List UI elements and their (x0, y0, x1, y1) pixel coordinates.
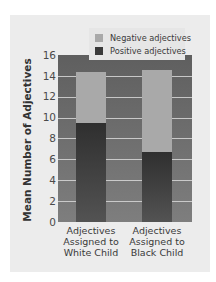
legend-swatch-negative (95, 34, 103, 42)
y-tick-14: 14 (36, 70, 56, 82)
bar-segment-negative (142, 70, 172, 152)
bar-segment-negative (76, 72, 106, 123)
bar-black-child (142, 70, 172, 222)
legend-item-positive: Positive adjectives (95, 46, 186, 56)
legend-item-negative: Negative adjectives (95, 33, 191, 43)
x-label-line: Assigned to (122, 236, 192, 247)
y-tick-2: 2 (36, 195, 56, 207)
legend-label-positive: Positive adjectives (110, 46, 186, 56)
y-tick-6: 6 (36, 153, 56, 165)
bar-white-child (76, 72, 106, 222)
y-tick-0: 0 (36, 216, 56, 228)
y-tick-16: 16 (36, 49, 56, 61)
x-label-line: Adjectives (56, 225, 126, 236)
y-tick-12: 12 (36, 90, 56, 102)
x-label-white-child: Adjectives Assigned to White Child (56, 225, 126, 258)
x-label-line: Adjectives (122, 225, 192, 236)
legend: Negative adjectives Positive adjectives (89, 28, 185, 60)
y-tick-10: 10 (36, 111, 56, 123)
y-tick-8: 8 (36, 132, 56, 144)
x-label-black-child: Adjectives Assigned to Black Child (122, 225, 192, 258)
bar-segment-positive (142, 152, 172, 222)
x-label-line: White Child (56, 247, 126, 258)
legend-label-negative: Negative adjectives (110, 33, 191, 43)
legend-swatch-positive (95, 47, 103, 55)
y-axis-label: Mean Number of Adjectives (21, 58, 33, 221)
bar-segment-positive (76, 123, 106, 222)
x-label-line: Assigned to (56, 236, 126, 247)
plot-area (58, 55, 192, 222)
y-tick-4: 4 (36, 174, 56, 186)
x-label-line: Black Child (122, 247, 192, 258)
